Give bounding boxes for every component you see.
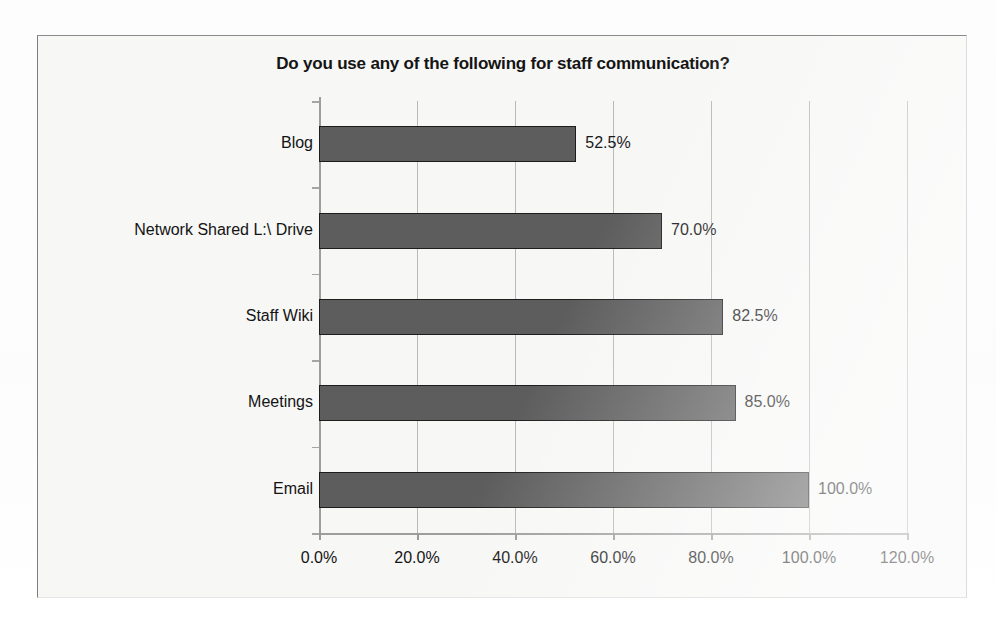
x-axis-tick <box>417 533 419 540</box>
category-label: Email <box>273 480 313 498</box>
chart-frame: Do you use any of the following for staf… <box>37 35 967 598</box>
plot-area: 0.0%20.0%40.0%60.0%80.0%100.0%120.0%52.5… <box>319 101 907 533</box>
scanned-page: Do you use any of the following for staf… <box>0 0 996 623</box>
x-axis-tick-label: 20.0% <box>394 549 439 567</box>
x-axis-tick-label: 0.0% <box>301 549 337 567</box>
bar <box>319 472 809 508</box>
gridline-1000 <box>809 101 810 533</box>
category-label: Meetings <box>248 393 313 411</box>
bar <box>319 385 736 421</box>
category-label: Network Shared L:\ Drive <box>134 221 313 239</box>
y-axis-tick <box>312 101 319 103</box>
y-axis-tick <box>312 447 319 449</box>
bar <box>319 299 723 335</box>
bar-value-label: 82.5% <box>732 307 777 325</box>
category-label: Staff Wiki <box>246 307 313 325</box>
bar <box>319 213 662 249</box>
bar-value-label: 52.5% <box>585 134 630 152</box>
category-axis-labels: BlogNetwork Shared L:\ DriveStaff WikiMe… <box>68 101 313 533</box>
y-axis-tick <box>312 187 319 189</box>
x-axis-tick <box>515 533 517 540</box>
x-axis-tick-label: 120.0% <box>880 549 934 567</box>
y-axis-tick <box>312 360 319 362</box>
bar-value-label: 70.0% <box>671 221 716 239</box>
y-axis-tick <box>312 274 319 276</box>
bar-value-label: 85.0% <box>745 393 790 411</box>
x-axis-tick-label: 60.0% <box>590 549 635 567</box>
y-axis-tick <box>312 533 319 535</box>
x-axis-tick-label: 100.0% <box>782 549 836 567</box>
x-axis-tick <box>613 533 615 540</box>
chart-title: Do you use any of the following for staf… <box>38 54 968 74</box>
x-axis-tick <box>319 533 321 540</box>
bar-value-label: 100.0% <box>818 480 872 498</box>
x-axis-tick-label: 40.0% <box>492 549 537 567</box>
x-axis-tick <box>809 533 811 540</box>
x-axis-tick-label: 80.0% <box>688 549 733 567</box>
bar <box>319 126 576 162</box>
x-axis-tick <box>711 533 713 540</box>
gridline-1200 <box>907 101 908 533</box>
x-axis-tick <box>907 533 909 540</box>
category-label: Blog <box>281 134 313 152</box>
